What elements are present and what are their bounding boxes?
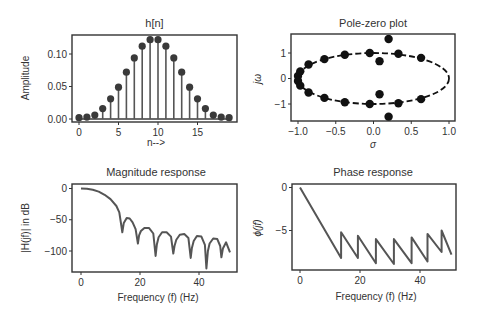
pole-zero-marker bbox=[384, 35, 392, 43]
pole-zero-marker bbox=[375, 57, 383, 65]
x-tick-label: 0.5 bbox=[404, 126, 418, 137]
pole-zero-marker bbox=[366, 49, 374, 57]
x-tick-label: 0.0 bbox=[367, 126, 381, 137]
stem-marker bbox=[147, 36, 154, 43]
pole-zero-marker bbox=[304, 88, 312, 96]
x-tick-label: 5 bbox=[116, 127, 122, 138]
magnitude-plot-area bbox=[81, 189, 230, 269]
y-tick-label: 0.00 bbox=[48, 114, 68, 125]
stem-marker bbox=[99, 105, 106, 112]
stem-marker bbox=[83, 113, 90, 120]
stem-marker bbox=[107, 95, 114, 102]
x-tick-label: 15 bbox=[192, 127, 204, 138]
stem-marker bbox=[202, 105, 209, 112]
y-tick-label: 0 bbox=[280, 73, 286, 84]
pole-zero-marker bbox=[296, 81, 304, 89]
x-tick-label: −1.0 bbox=[288, 126, 308, 137]
y-tick-label: −5 bbox=[276, 225, 288, 236]
x-tick-label: 20 bbox=[354, 275, 366, 286]
pole-zero-marker bbox=[320, 55, 328, 63]
stem-marker bbox=[131, 54, 138, 61]
x-axis-label: Frequency (f) (Hz) bbox=[117, 292, 198, 303]
stem-marker bbox=[226, 114, 233, 121]
pole-zero-marker bbox=[366, 100, 374, 108]
stem-marker bbox=[91, 112, 98, 119]
stem-marker bbox=[115, 84, 122, 91]
y-axis-ticks: 0−5 bbox=[276, 182, 292, 236]
y-axis-ticks: 10−1 bbox=[275, 48, 291, 110]
y-axis-ticks: 0−50−100 bbox=[44, 183, 72, 257]
pole-zero-marker bbox=[375, 90, 383, 98]
magnitude-response-panel: Magnitude response 02040 0−50−100 Freque… bbox=[20, 166, 237, 303]
stem-marker bbox=[210, 112, 217, 119]
stem-marker bbox=[154, 36, 161, 43]
x-axis-ticks: −1.0−0.50.00.51.0 bbox=[288, 121, 456, 137]
x-tick-label: 0 bbox=[76, 127, 82, 138]
pole-zero-marker bbox=[341, 98, 349, 106]
stem-marker bbox=[178, 69, 185, 76]
pole-zero-marker bbox=[304, 60, 312, 68]
chart-title: Phase response bbox=[333, 166, 413, 178]
impulse-response-panel: h[n] 051015 0.000.050.10 n--> Amplitude bbox=[20, 17, 237, 148]
chart-title: Magnitude response bbox=[106, 166, 206, 178]
x-axis-label: Frequency (f) (Hz) bbox=[335, 291, 416, 302]
x-axis-label: n--> bbox=[147, 137, 165, 148]
axes-frame bbox=[291, 34, 455, 121]
y-tick-label: 0.10 bbox=[48, 49, 68, 60]
chart-title: Pole-zero plot bbox=[339, 17, 407, 29]
y-tick-label: 1 bbox=[280, 48, 286, 59]
stem-marker bbox=[139, 43, 146, 50]
x-tick-label: 40 bbox=[193, 277, 205, 288]
stem-marker bbox=[75, 114, 82, 121]
y-axis-label: |H(jf)| in dB bbox=[20, 203, 31, 253]
x-tick-label: 40 bbox=[414, 275, 426, 286]
stem-marker bbox=[218, 113, 225, 120]
x-tick-label: 0 bbox=[78, 277, 84, 288]
axes-frame bbox=[292, 184, 456, 270]
pole-zero-panel: Pole-zero plot −1.0−0.50.00.51.0 10−1 σ … bbox=[252, 17, 456, 150]
pole-zero-marker bbox=[417, 95, 425, 103]
figure: h[n] 051015 0.000.050.10 n--> Amplitude … bbox=[0, 0, 478, 317]
y-axis-label: ϕ(jf) bbox=[252, 219, 263, 236]
x-axis-ticks: 051015 bbox=[76, 122, 203, 138]
stem-marker bbox=[186, 84, 193, 91]
y-tick-label: −100 bbox=[44, 246, 67, 257]
y-tick-label: 0 bbox=[61, 183, 67, 194]
y-tick-label: −1 bbox=[275, 99, 287, 110]
x-tick-label: −0.5 bbox=[326, 126, 346, 137]
pole-zero-marker bbox=[296, 67, 304, 75]
stem-marker bbox=[194, 95, 201, 102]
x-tick-label: 0 bbox=[297, 275, 303, 286]
pole-zero-marker bbox=[320, 94, 328, 102]
stem-marker bbox=[162, 43, 169, 50]
pole-zero-marker bbox=[417, 54, 425, 62]
y-tick-label: −50 bbox=[50, 214, 67, 225]
phase-response-panel: Phase response 02040 0−5 Frequency (f) (… bbox=[252, 166, 456, 302]
y-axis-label: jω bbox=[252, 74, 263, 86]
x-axis-ticks: 02040 bbox=[78, 272, 205, 288]
pole-zero-marker bbox=[394, 99, 402, 107]
x-axis-ticks: 02040 bbox=[297, 270, 426, 286]
series-line bbox=[300, 188, 452, 265]
pole-zero-marker bbox=[394, 50, 402, 58]
y-axis-ticks: 0.000.050.10 bbox=[48, 49, 72, 125]
y-tick-label: 0.05 bbox=[48, 81, 68, 92]
pole-zero-plot-area bbox=[294, 35, 449, 121]
x-tick-label: 20 bbox=[134, 277, 146, 288]
figure-canvas: h[n] 051015 0.000.050.10 n--> Amplitude … bbox=[0, 0, 478, 317]
stem-plot-area bbox=[75, 36, 232, 121]
y-tick-label: 0 bbox=[281, 182, 287, 193]
pole-zero-marker bbox=[384, 113, 392, 121]
stem-marker bbox=[123, 69, 130, 76]
y-axis-label: Amplitude bbox=[20, 55, 31, 100]
x-axis-label: σ bbox=[370, 139, 377, 150]
phase-plot-area bbox=[300, 188, 452, 265]
stem-marker bbox=[170, 54, 177, 61]
series-line bbox=[81, 189, 230, 269]
axes-frame bbox=[72, 184, 237, 272]
pole-zero-marker bbox=[341, 51, 349, 59]
x-tick-label: 1.0 bbox=[442, 126, 456, 137]
chart-title: h[n] bbox=[145, 17, 163, 29]
axes-frame bbox=[72, 35, 237, 122]
